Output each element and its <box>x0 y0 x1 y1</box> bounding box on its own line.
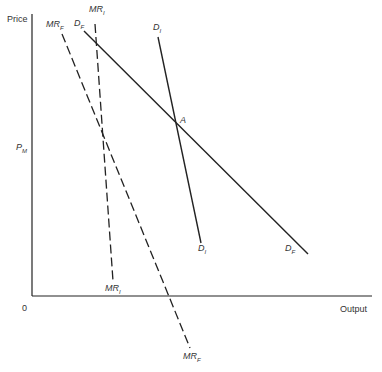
di-bottom-sub: I <box>205 249 207 255</box>
mrf-bottom-label: MRF <box>183 351 201 363</box>
origin-label: 0 <box>22 303 27 313</box>
df-top-sub: F <box>81 24 85 30</box>
mrf-bottom-main: MR <box>183 351 197 361</box>
mri-bottom-main: MR <box>105 283 119 293</box>
mri-bottom-label: MRI <box>105 283 121 295</box>
diagram-canvas <box>0 0 382 372</box>
di-demand-curve <box>158 37 201 243</box>
df-bottom-sub: F <box>292 249 296 255</box>
df-bottom-label: DF <box>285 243 295 255</box>
df-top-label: DF <box>74 18 84 30</box>
mrf-marginal-revenue-curve <box>62 34 190 348</box>
mrf-top-sub: F <box>60 25 64 31</box>
mri-marginal-revenue-curve <box>95 24 113 281</box>
mrf-top-label: MRF <box>46 19 64 31</box>
mri-top-sub: I <box>103 10 105 16</box>
intersection-label: A <box>180 115 186 125</box>
di-top-sub: I <box>160 28 162 34</box>
mri-top-label: MRI <box>89 4 105 16</box>
mrf-bottom-sub: F <box>197 357 201 363</box>
di-bottom-label: DI <box>198 243 206 255</box>
mrf-top-main: MR <box>46 19 60 29</box>
y-axis-label: Price <box>7 14 28 24</box>
mri-top-main: MR <box>89 4 103 14</box>
mri-bottom-sub: I <box>119 289 121 295</box>
x-axis-label: Output <box>340 304 367 314</box>
price-marker-label: PM <box>16 142 27 154</box>
di-top-label: DI <box>153 22 161 34</box>
pm-sub: M <box>22 148 27 154</box>
